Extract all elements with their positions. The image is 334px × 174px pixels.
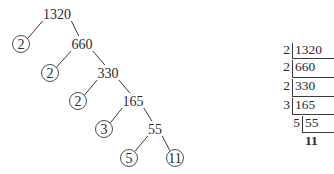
ladder-bracket-vertical (292, 60, 293, 77)
prime-factor-node: 5 (121, 150, 138, 167)
ladder-bracket-vertical (302, 116, 303, 132)
ladder-divisor: 3 (278, 97, 290, 113)
prime-factor-node: 2 (70, 93, 87, 110)
tree-edge (93, 51, 105, 65)
prime-factor-node: 3 (96, 121, 113, 138)
ladder-quotient: 660 (295, 59, 315, 75)
tree-edge (110, 108, 122, 123)
node-label: 11 (168, 151, 181, 166)
tree-edge (144, 108, 152, 121)
node-label: 3 (101, 122, 108, 137)
ladder-quotient: 55 (305, 115, 319, 131)
prime-factor-node: 2 (42, 65, 59, 82)
ladder-divisor: 2 (278, 42, 290, 58)
division-ladder: 2132026602330316555511 (278, 0, 334, 174)
node-label: 660 (72, 37, 93, 52)
ladder-bracket-vertical (292, 43, 293, 58)
ladder-bracket-horizontal (292, 58, 334, 59)
ladder-quotient: 330 (295, 78, 315, 94)
tree-edge (135, 136, 148, 151)
ladder-bracket-horizontal (302, 132, 334, 133)
ladder-bracket-vertical (292, 98, 293, 114)
ladder-bracket-horizontal (292, 77, 334, 78)
tree-edge (71, 21, 78, 36)
tree-edge (57, 51, 72, 67)
tree-nodes: 1320266023302165355511 (13, 7, 184, 167)
prime-factor-node: 2 (13, 36, 30, 53)
ladder-quotient: 1320 (295, 42, 322, 58)
tree-edge (85, 80, 98, 95)
tree-edge (28, 21, 43, 38)
ladder-bracket-horizontal (292, 114, 334, 115)
ladder-quotient: 165 (295, 97, 315, 113)
ladder-divisor: 2 (278, 78, 290, 94)
node-label: 2 (75, 94, 82, 109)
composite-node: 1320 (43, 7, 71, 22)
tree-edge (162, 136, 170, 151)
composite-node: 165 (123, 94, 144, 109)
node-label: 2 (18, 37, 25, 52)
node-label: 330 (98, 66, 119, 81)
composite-node: 660 (72, 37, 93, 52)
ladder-quotient: 11 (305, 133, 318, 149)
ladder-divisor: 5 (288, 115, 300, 131)
node-label: 165 (123, 94, 144, 109)
tree-edge (119, 80, 130, 93)
composite-node: 330 (98, 66, 119, 81)
node-label: 2 (47, 66, 54, 81)
node-label: 1320 (43, 7, 71, 22)
prime-factor-node: 11 (167, 150, 184, 167)
ladder-divisor: 2 (278, 59, 290, 75)
composite-node: 55 (148, 122, 162, 137)
node-label: 55 (148, 122, 162, 137)
node-label: 5 (126, 151, 133, 166)
ladder-bracket-horizontal (292, 96, 334, 97)
ladder-bracket-vertical (292, 79, 293, 96)
